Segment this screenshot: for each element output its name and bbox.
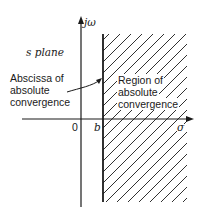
s-plane-diagram <box>0 0 203 222</box>
pointer-arrowhead-icon <box>96 78 102 84</box>
region-label-line1: Region of <box>117 74 164 86</box>
abscissa-label-line3: convergence <box>10 96 70 108</box>
real-axis-arrow-icon <box>186 116 194 122</box>
abscissa-pointer-arrow <box>67 80 100 92</box>
s-plane-label: s plane <box>26 46 64 58</box>
abscissa-label-line2: absolute <box>10 84 50 96</box>
jw-axis-label: jω <box>84 16 96 28</box>
convergence-region-hatching <box>93 0 203 222</box>
b-label: b <box>94 121 101 133</box>
origin-label: 0 <box>72 121 78 133</box>
sigma-axis-label: σ <box>177 121 184 133</box>
abscissa-label-line1: Abscissa of <box>10 72 64 84</box>
region-label-line2: absolute <box>117 86 159 98</box>
region-label-line3: convergence <box>117 98 179 110</box>
